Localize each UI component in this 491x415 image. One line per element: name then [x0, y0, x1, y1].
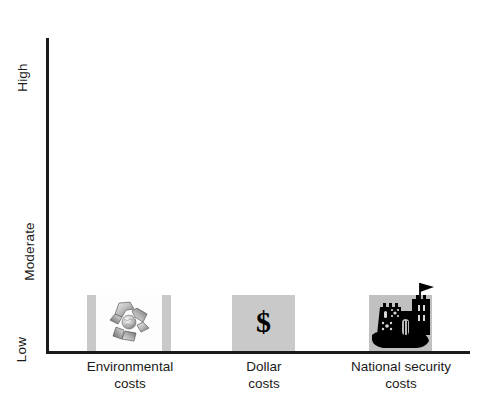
y-axis-tick-low: Low	[0, 342, 44, 357]
x-axis-line	[46, 351, 470, 354]
x-axis-tick-security-line2: costs	[318, 375, 484, 392]
y-axis-tick-low-label: Low	[15, 337, 30, 362]
bar-slot-dollar: $	[232, 38, 295, 351]
y-axis-tick-moderate: Moderate	[0, 244, 44, 259]
bar-dollar-costs: $	[232, 295, 295, 351]
x-axis-tick-dollar-line1: Dollar	[246, 359, 281, 374]
bar-slot-environmental	[87, 38, 171, 351]
dollar-sign-icon: $	[232, 307, 295, 337]
chart-container: High Moderate Low	[0, 0, 491, 415]
bar-slot-security	[369, 38, 432, 351]
x-axis-tick-security: National security costs	[318, 358, 484, 392]
x-axis-tick-environmental: Environmental costs	[47, 358, 213, 392]
x-axis-tick-dollar-line2: costs	[196, 375, 332, 392]
bar-environmental-costs	[87, 295, 171, 351]
bar-national-security-costs	[369, 295, 432, 351]
y-axis-tick-moderate-label: Moderate	[22, 222, 37, 281]
x-axis-tick-dollar: Dollar costs	[196, 358, 332, 392]
y-axis-tick-high: High	[0, 70, 44, 85]
x-axis-tick-security-line1: National security	[351, 359, 451, 374]
recycling-symbol-icon	[104, 299, 154, 345]
x-axis-tick-environmental-line2: costs	[47, 375, 213, 392]
plot-area: $	[49, 38, 470, 351]
x-axis-tick-environmental-line1: Environmental	[87, 359, 173, 374]
y-axis-tick-high-label: High	[14, 63, 29, 92]
castle-fortress-icon	[368, 281, 434, 351]
